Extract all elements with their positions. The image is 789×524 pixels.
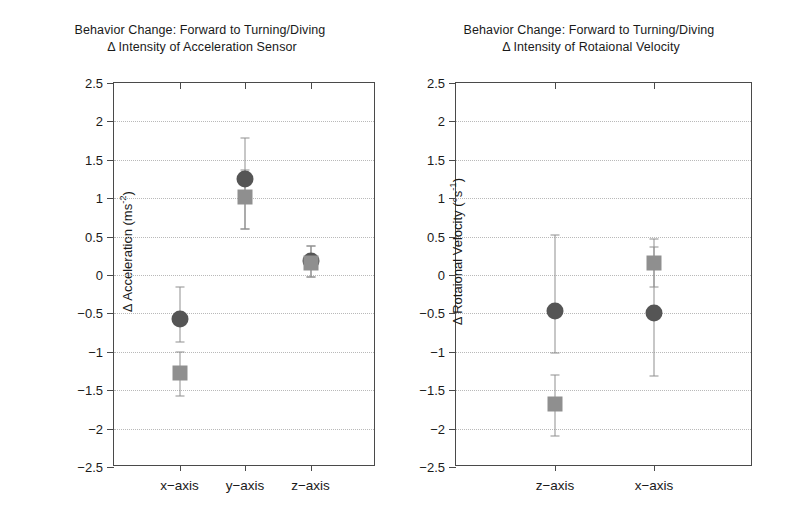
y-tick-label-left-5: 0 <box>96 268 103 283</box>
y-tick-right-10 <box>449 467 456 468</box>
y-tick-left-1 <box>107 121 114 122</box>
y-tick-label-left-1: 2 <box>96 114 103 129</box>
y-tick-left-8 <box>107 390 114 391</box>
x-axis-label-left-yaxis: y−axis <box>226 478 265 493</box>
gridline-left-7 <box>114 352 374 353</box>
error-cap-left-circle-0-low <box>175 341 184 342</box>
y-tick-left-4 <box>107 237 114 238</box>
y-axis-label-right: Δ Rotaional Velocity (°s-1) <box>447 102 464 402</box>
data-point-left-square-zaxis <box>303 256 318 271</box>
gridline-right-8 <box>456 390 751 391</box>
error-cap-left-square-0-high <box>175 351 184 352</box>
panel-right-title-line2: Δ Intensity of Rotaional Velocity <box>389 39 789 56</box>
gridline-right-5 <box>456 275 751 276</box>
y-tick-right-7 <box>449 352 456 353</box>
error-cap-right-circle-0-high <box>551 235 560 236</box>
error-bar-right-circle-0 <box>555 235 556 353</box>
y-axis-label-right-text: Δ Rotaional Velocity (°s <box>450 191 465 326</box>
gridline-left-1 <box>114 121 374 122</box>
y-tick-right-5 <box>449 275 456 276</box>
gridline-right-1 <box>456 121 751 122</box>
error-cap-left-square-1-low <box>241 228 250 229</box>
gridline-right-7 <box>456 352 751 353</box>
y-tick-label-right-4: 0.5 <box>427 229 445 244</box>
panel-rotational-velocity: Behavior Change: Forward to Turning/Divi… <box>389 0 789 524</box>
error-cap-left-square-2-high <box>306 245 315 246</box>
y-tick-left-5 <box>107 275 114 276</box>
x-tick-left-2 <box>311 465 312 471</box>
y-tick-left-3 <box>107 198 114 199</box>
y-tick-label-right-1: 2 <box>438 114 445 129</box>
y-tick-label-right-8: −1.5 <box>419 383 445 398</box>
y-tick-label-left-4: 0.5 <box>85 229 103 244</box>
y-tick-label-left-7: −1 <box>88 344 103 359</box>
gridline-right-2 <box>456 160 751 161</box>
x-tick-left-1 <box>245 465 246 471</box>
gridline-left-4 <box>114 237 374 238</box>
y-tick-label-right-2: 1.5 <box>427 152 445 167</box>
x-tick-right-0 <box>555 465 556 471</box>
gridline-left-8 <box>114 390 374 391</box>
x-tick-top-right-0 <box>555 83 556 89</box>
data-point-right-circle-xaxis <box>646 305 663 322</box>
y-tick-right-0 <box>449 83 456 84</box>
data-point-left-circle-xaxis <box>171 310 188 327</box>
error-cap-left-square-2-low <box>306 276 315 277</box>
x-axis-label-left-xaxis: x−axis <box>160 478 199 493</box>
y-axis-label-left-tail: ) <box>120 191 135 195</box>
x-axis-label-left-zaxis: z−axis <box>291 478 330 493</box>
plot-area-left: Δ Acceleration (ms-2) 2.521.510.50−0.5−1… <box>113 82 375 466</box>
data-point-left-square-xaxis <box>172 366 187 381</box>
panel-left-title-line2: Δ Intensity of Acceleration Sensor <box>0 39 400 56</box>
y-tick-label-left-8: −1.5 <box>77 383 103 398</box>
figure-canvas: Behavior Change: Forward to Turning/Divi… <box>0 0 789 524</box>
y-tick-left-10 <box>107 467 114 468</box>
y-tick-label-left-9: −2 <box>88 421 103 436</box>
x-tick-right-1 <box>654 465 655 471</box>
x-tick-left-0 <box>180 465 181 471</box>
error-cap-right-square-1-low <box>650 286 659 287</box>
y-tick-right-9 <box>449 429 456 430</box>
gridline-right-6 <box>456 313 751 314</box>
y-axis-label-right-tail: ) <box>450 178 465 182</box>
y-tick-left-7 <box>107 352 114 353</box>
gridline-left-9 <box>114 429 374 430</box>
y-axis-label-left: Δ Acceleration (ms-2) <box>117 112 134 392</box>
error-cap-right-circle-1-low <box>650 376 659 377</box>
panel-acceleration: Behavior Change: Forward to Turning/Divi… <box>0 0 400 524</box>
gridline-right-3 <box>456 198 751 199</box>
data-point-right-circle-zaxis <box>547 303 564 320</box>
gridline-left-5 <box>114 275 374 276</box>
y-tick-right-6 <box>449 313 456 314</box>
y-tick-right-8 <box>449 390 456 391</box>
panel-right-title-line1: Behavior Change: Forward to Turning/Divi… <box>389 22 789 39</box>
error-cap-right-circle-0-low <box>551 353 560 354</box>
x-axis-label-right-zaxis: z−axis <box>536 478 575 493</box>
data-point-left-circle-yaxis <box>237 171 254 188</box>
y-tick-label-left-10: −2.5 <box>77 460 103 475</box>
y-axis-label-left-text: Δ Acceleration (ms <box>120 204 135 312</box>
error-cap-right-square-0-high <box>551 374 560 375</box>
y-tick-label-left-3: 1 <box>96 191 103 206</box>
y-tick-label-left-2: 1.5 <box>85 152 103 167</box>
error-cap-right-square-1-high <box>650 238 659 239</box>
gridline-right-9 <box>456 429 751 430</box>
x-tick-top-right-1 <box>654 83 655 89</box>
y-tick-right-1 <box>449 121 456 122</box>
gridline-left-6 <box>114 313 374 314</box>
y-axis-label-right-exponent: -1 <box>447 182 458 190</box>
x-tick-top-left-2 <box>311 83 312 89</box>
x-axis-label-right-xaxis: x−axis <box>635 478 674 493</box>
y-tick-label-left-0: 2.5 <box>85 76 103 91</box>
y-tick-right-2 <box>449 160 456 161</box>
y-tick-left-6 <box>107 313 114 314</box>
panel-left-title-line1: Behavior Change: Forward to Turning/Divi… <box>0 22 400 39</box>
y-tick-label-right-9: −2 <box>430 421 445 436</box>
data-point-right-square-xaxis <box>647 256 662 271</box>
plot-area-right: Δ Rotaional Velocity (°s-1) 2.521.510.50… <box>455 82 752 466</box>
y-tick-left-2 <box>107 160 114 161</box>
y-tick-right-3 <box>449 198 456 199</box>
y-tick-left-0 <box>107 83 114 84</box>
panel-left-title: Behavior Change: Forward to Turning/Divi… <box>0 22 400 56</box>
error-cap-left-circle-1-high <box>241 138 250 139</box>
